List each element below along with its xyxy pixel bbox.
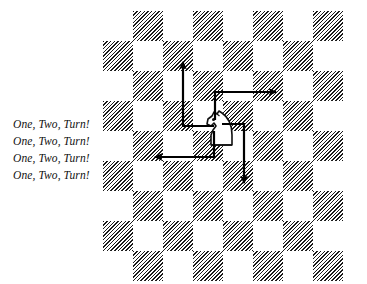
board-square-light <box>163 71 193 101</box>
board-square-dark <box>193 71 223 101</box>
board-square-dark <box>163 101 193 131</box>
board-square-dark <box>313 191 343 221</box>
board-square-light <box>223 191 253 221</box>
board-square-light <box>193 41 223 71</box>
board-square-light <box>103 191 133 221</box>
board-square-dark <box>163 161 193 191</box>
board-square-dark <box>133 71 163 101</box>
board-square-light <box>133 161 163 191</box>
board-square-dark <box>253 191 283 221</box>
board-square-dark <box>223 161 253 191</box>
board-square-light <box>253 221 283 251</box>
board-square-light <box>253 161 283 191</box>
knight-piece-icon <box>200 107 240 149</box>
board-square-light <box>193 161 223 191</box>
caption-line-2: One, Two, Turn! <box>13 133 105 150</box>
board-square-dark <box>103 221 133 251</box>
board-square-dark <box>253 251 283 281</box>
board-square-dark <box>283 161 313 191</box>
board-square-light <box>223 11 253 41</box>
board-square-light <box>253 101 283 131</box>
board-square-dark <box>313 11 343 41</box>
board-square-light <box>283 191 313 221</box>
board-square-dark <box>193 191 223 221</box>
board-square-light <box>163 251 193 281</box>
caption-block: One, Two, Turn! One, Two, Turn! One, Two… <box>13 116 105 184</box>
board-square-dark <box>133 191 163 221</box>
caption-line-4: One, Two, Turn! <box>13 167 105 184</box>
board-square-light <box>313 221 343 251</box>
board-square-light <box>133 41 163 71</box>
board-square-light <box>283 71 313 101</box>
board-square-dark <box>163 41 193 71</box>
board-square-dark <box>283 41 313 71</box>
board-square-dark <box>313 251 343 281</box>
board-square-light <box>283 251 313 281</box>
board-square-dark <box>133 251 163 281</box>
board-square-light <box>163 131 193 161</box>
board-square-dark <box>133 11 163 41</box>
board-square-light <box>103 251 133 281</box>
board-square-light <box>163 11 193 41</box>
board-square-light <box>313 41 343 71</box>
board-square-dark <box>103 101 133 131</box>
board-square-light <box>193 221 223 251</box>
board-square-dark <box>133 131 163 161</box>
board-square-light <box>223 251 253 281</box>
board-square-light <box>133 221 163 251</box>
board-square-light <box>253 41 283 71</box>
board-square-light <box>103 11 133 41</box>
board-square-dark <box>103 161 133 191</box>
board-square-light <box>103 131 133 161</box>
board-square-dark <box>313 131 343 161</box>
knight-move-figure: One, Two, Turn! One, Two, Turn! One, Two… <box>0 0 367 284</box>
board-square-light <box>313 161 343 191</box>
caption-line-3: One, Two, Turn! <box>13 150 105 167</box>
board-square-dark <box>193 251 223 281</box>
board-square-dark <box>283 221 313 251</box>
board-square-dark <box>163 221 193 251</box>
board-square-light <box>133 101 163 131</box>
board-square-light <box>313 101 343 131</box>
board-square-light <box>163 191 193 221</box>
board-square-light <box>283 131 313 161</box>
board-square-dark <box>103 41 133 71</box>
caption-line-1: One, Two, Turn! <box>13 116 105 133</box>
board-square-dark <box>193 11 223 41</box>
board-square-dark <box>223 221 253 251</box>
board-square-light <box>103 71 133 101</box>
board-square-dark <box>253 71 283 101</box>
board-square-dark <box>253 131 283 161</box>
board-square-dark <box>313 71 343 101</box>
board-square-light <box>283 11 313 41</box>
board-square-dark <box>253 11 283 41</box>
board-square-light <box>223 71 253 101</box>
board-square-dark <box>283 101 313 131</box>
board-square-dark <box>223 41 253 71</box>
